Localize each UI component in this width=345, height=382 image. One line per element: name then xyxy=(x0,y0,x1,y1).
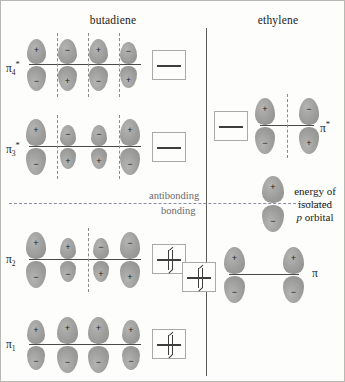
energy-level-line xyxy=(157,65,180,67)
lobe-sign: − xyxy=(58,46,77,55)
orbital-label-pi3-star: π3* xyxy=(6,140,20,158)
lobe-sign: + xyxy=(255,105,275,114)
lobe-sign: − xyxy=(27,357,45,366)
note-line-1: energy of xyxy=(286,185,344,198)
lobe-sign: − xyxy=(60,270,76,279)
lobe-sign: + xyxy=(224,254,245,263)
mo-row-butadiene-pi4-star: + − − + + − − + xyxy=(25,37,145,93)
lobe-sign: + xyxy=(262,183,284,192)
lobe-sign: + xyxy=(60,243,76,252)
orbital-label-ethylene-pi-star: π* xyxy=(320,119,330,134)
p-orbital: − + xyxy=(120,232,140,288)
lobe-sign: + xyxy=(122,326,140,335)
antibonding-label: antibonding xyxy=(149,190,199,201)
orbital-label-pi4-star: π4* xyxy=(6,59,20,77)
lobe-sign: − xyxy=(89,77,108,86)
lobe-sign: − xyxy=(26,160,46,169)
p-orbital: − + xyxy=(120,42,137,88)
orbital-label-pi1: π1 xyxy=(6,338,16,353)
electron-arrow-up xyxy=(168,250,169,270)
occupancy-box-butadiene-pi3-star xyxy=(152,132,186,162)
mo-diagram-figure: butadiene ethylene antibonding bonding π… xyxy=(0,0,345,382)
pi-superscript: * xyxy=(16,59,20,69)
lobe-sign: − xyxy=(120,160,140,169)
electron-arrow-down xyxy=(172,250,173,270)
electron-arrow-up xyxy=(198,268,199,288)
p-orbital: + − xyxy=(27,320,45,370)
p-orbital: − + xyxy=(60,125,76,169)
lobe-sign: − xyxy=(26,273,46,282)
column-title-ethylene: ethylene xyxy=(223,14,333,26)
electron-arrow-up xyxy=(168,335,169,355)
node-plane xyxy=(88,228,89,292)
p-orbital: + − xyxy=(255,98,275,154)
p-orbital: + − xyxy=(60,238,76,282)
lobe-sign: + xyxy=(57,324,78,333)
p-orbital: − + xyxy=(93,238,109,282)
lobe-sign: − xyxy=(93,243,109,252)
column-divider xyxy=(206,28,207,376)
lobe-sign: + xyxy=(88,324,109,333)
electron-arrow-down xyxy=(202,268,203,288)
p-orbital: − + xyxy=(91,125,107,169)
p-orbital: − + xyxy=(58,39,77,91)
p-orbital: + − xyxy=(224,247,245,303)
p-orbital: + − xyxy=(27,39,46,91)
lobe-sign: − xyxy=(120,239,140,248)
occupancy-box-butadiene-pi4-star xyxy=(152,50,186,80)
lobe-sign: + xyxy=(299,139,319,148)
energy-level-line xyxy=(219,126,242,128)
note-line-3-rest: orbital xyxy=(302,211,333,223)
lobe-sign: − xyxy=(91,130,107,139)
occupancy-box-ethylene-pi xyxy=(182,262,216,292)
lobe-sign: + xyxy=(93,270,109,279)
bonding-label: bonding xyxy=(161,205,195,216)
pi-superscript: * xyxy=(16,140,20,150)
lobe-sign: + xyxy=(26,126,46,135)
lobe-sign: + xyxy=(26,239,46,248)
lobe-sign: − xyxy=(283,288,304,297)
mo-row-ethylene-pi-star: + − − + xyxy=(254,98,329,154)
p-orbital: − + xyxy=(299,98,319,154)
lobe-sign: + xyxy=(283,254,304,263)
p-orbital: + − xyxy=(57,317,78,373)
isolated-p-orbital-note: energy of isolated p orbital xyxy=(286,185,344,224)
p-orbital: + − xyxy=(26,119,46,175)
pi-subscript: 2 xyxy=(12,259,16,268)
lobe-sign: + xyxy=(91,157,107,166)
lobe-sign: − xyxy=(57,358,78,367)
occupancy-box-butadiene-pi2 xyxy=(152,244,186,274)
pi-subscript: 3 xyxy=(12,149,16,158)
pi-glyph: π xyxy=(312,267,318,279)
p-orbital: + − xyxy=(122,320,140,370)
lobe-sign: − xyxy=(27,77,46,86)
pi-superscript: * xyxy=(326,119,330,129)
occupancy-box-ethylene-pi-star xyxy=(214,111,248,141)
isolated-p-orbital: + − xyxy=(262,176,284,232)
p-orbital: + − xyxy=(26,232,46,288)
p-orbital: + − xyxy=(89,39,108,91)
mo-row-butadiene-pi1: + − + − + − + − xyxy=(25,317,145,373)
p-orbital: + − xyxy=(120,119,140,175)
note-line-2: isolated xyxy=(286,198,344,211)
lobe-sign: + xyxy=(60,157,76,166)
lobe-sign: − xyxy=(88,358,109,367)
pi-subscript: 4 xyxy=(12,68,16,77)
orbital-label-ethylene-pi: π xyxy=(312,267,318,279)
lobe-sign: − xyxy=(120,47,137,56)
lobe-sign: − xyxy=(122,357,140,366)
node-plane xyxy=(287,94,288,158)
lobe-sign: + xyxy=(120,126,140,135)
pi-subscript: 1 xyxy=(12,344,16,353)
lobe-sign: − xyxy=(262,217,284,226)
lobe-sign: + xyxy=(58,77,77,86)
lobe-sign: + xyxy=(27,326,45,335)
lobe-sign: − xyxy=(255,139,275,148)
lobe-sign: + xyxy=(120,76,137,85)
electron-arrow-down xyxy=(172,335,173,355)
mo-row-butadiene-pi2: + − + − − + − + xyxy=(25,232,145,288)
lobe-sign: + xyxy=(89,46,108,55)
node-plane xyxy=(57,115,58,179)
energy-level-line xyxy=(157,147,180,149)
lobe-sign: − xyxy=(60,130,76,139)
